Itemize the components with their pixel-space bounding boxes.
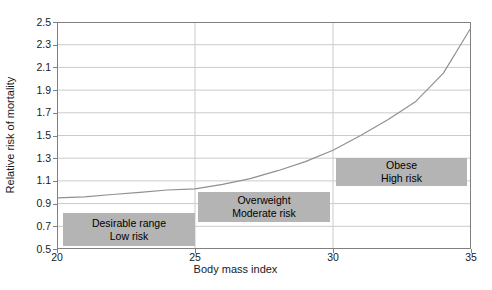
x-axis-title: Body mass index (0, 263, 471, 275)
y-tick-label: 1.3 (23, 153, 51, 164)
y-axis-title: Relative risk of mortality (4, 77, 16, 194)
annotation-box-overweight: OverweightModerate risk (198, 192, 330, 222)
annotation-label-line1: Overweight (237, 194, 290, 207)
annotation-label-line2: Low risk (110, 230, 149, 243)
annotation-label-line1: Obese (386, 159, 417, 172)
y-tick-label: 1.7 (23, 107, 51, 118)
y-tick-mark (53, 158, 57, 159)
y-tick-label: 0.9 (23, 198, 51, 209)
y-tick-mark (53, 67, 57, 68)
y-tick-mark (53, 181, 57, 182)
y-tick-mark (53, 113, 57, 114)
bmi-mortality-risk-chart: Relative risk of mortality Body mass ind… (0, 0, 492, 290)
y-tick-label: 2.1 (23, 62, 51, 73)
y-tick-mark (53, 226, 57, 227)
y-tick-mark (53, 90, 57, 91)
x-tick-label: 20 (43, 252, 71, 263)
y-tick-mark (53, 45, 57, 46)
y-tick-label: 2.5 (23, 17, 51, 28)
x-tick-label: 30 (319, 252, 347, 263)
x-tick-label: 35 (457, 252, 485, 263)
annotation-box-desirable-range: Desirable rangeLow risk (63, 213, 195, 246)
y-tick-label: 1.1 (23, 175, 51, 186)
y-tick-mark (53, 22, 57, 23)
annotation-box-obese: ObeseHigh risk (336, 158, 467, 186)
y-tick-label: 1.5 (23, 130, 51, 141)
y-tick-label: 1.9 (23, 85, 51, 96)
x-tick-label: 25 (181, 252, 209, 263)
y-tick-mark (53, 204, 57, 205)
annotation-label-line2: High risk (381, 172, 422, 185)
y-tick-label: 2.3 (23, 39, 51, 50)
annotation-label-line2: Moderate risk (232, 207, 296, 220)
annotation-label-line1: Desirable range (92, 217, 166, 230)
y-tick-label: 0.7 (23, 221, 51, 232)
y-tick-mark (53, 136, 57, 137)
